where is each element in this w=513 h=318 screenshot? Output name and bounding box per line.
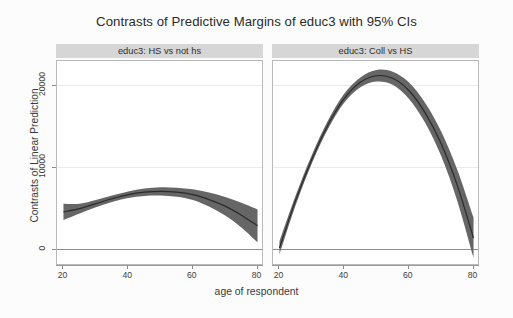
x-axis-tick-label: 40 [112,270,142,280]
series-group [57,61,263,265]
series-group [273,61,479,265]
confidence-interval-band [279,70,473,258]
y-axis-tick-label: 10000 [37,146,47,186]
panel-header-label: educ3: HS vs not hs [118,46,201,56]
panel-header-coll-vs-hs: educ3: Coll vs HS [272,44,479,58]
x-axis-tick-label: 40 [328,270,358,280]
x-axis-tick-label: 80 [458,270,488,280]
page-title: Contrasts of Predictive Margins of educ3… [0,14,513,29]
x-axis-tick-label: 60 [393,270,423,280]
x-axis-line [272,265,479,266]
plot-area-coll-vs-hs [272,60,479,265]
figure-canvas: Contrasts of Predictive Margins of educ3… [0,0,513,318]
x-axis-tick-label: 20 [263,270,293,280]
x-axis-tick-label: 20 [47,270,77,280]
x-axis-line [56,265,263,266]
x-axis-tick-label: 60 [177,270,207,280]
plot-area-hs-vs-not-hs [56,60,263,265]
panel-header-hs-vs-not-hs: educ3: HS vs not hs [56,44,263,58]
panel-header-label: educ3: Coll vs HS [339,46,413,56]
y-axis-tick-label: 0 [37,228,47,268]
y-axis-tick-label: 20000 [37,64,47,104]
x-axis-title: age of respondent [0,286,513,297]
confidence-interval-band [63,187,257,242]
